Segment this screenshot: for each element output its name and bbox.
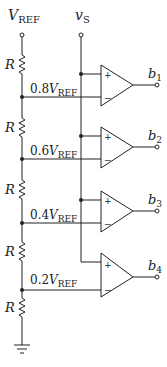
svg-text:+: + bbox=[104, 196, 112, 206]
tap-label-4: 0.2VREF bbox=[30, 273, 77, 289]
output-label-b4: b4 bbox=[148, 258, 162, 275]
output-terminal bbox=[155, 145, 159, 149]
output-label-b2: b2 bbox=[148, 128, 162, 145]
resistor-label: R bbox=[4, 244, 15, 259]
tap-label-2: 0.6VREF bbox=[30, 144, 77, 160]
svg-text:+: + bbox=[104, 70, 112, 80]
flash-adc-diagram: VREF vS R R R R R + − bbox=[0, 0, 167, 367]
output-label-b1: b1 bbox=[148, 66, 162, 83]
output-terminal bbox=[155, 83, 159, 87]
output-terminal bbox=[155, 275, 159, 279]
resistor-ladder bbox=[14, 37, 30, 353]
vref-terminal bbox=[20, 33, 24, 37]
tap-label-3: 0.4VREF bbox=[30, 208, 77, 224]
resistor-label: R bbox=[4, 120, 15, 135]
vs-terminal bbox=[79, 33, 83, 37]
output-label-b3: b3 bbox=[148, 192, 162, 209]
vref-label: VREF bbox=[8, 7, 40, 25]
svg-text:−: − bbox=[104, 155, 112, 165]
output-terminal bbox=[155, 209, 159, 213]
resistor-label: R bbox=[4, 300, 15, 315]
svg-text:−: − bbox=[104, 93, 112, 103]
resistor-label: R bbox=[4, 57, 15, 72]
resistor-label: R bbox=[4, 182, 15, 197]
svg-text:−: − bbox=[104, 285, 112, 295]
svg-text:+: + bbox=[104, 260, 112, 270]
svg-text:+: + bbox=[104, 132, 112, 142]
tap-label-1: 0.8VREF bbox=[30, 82, 77, 98]
svg-text:−: − bbox=[104, 219, 112, 229]
vs-label: vS bbox=[75, 7, 90, 25]
